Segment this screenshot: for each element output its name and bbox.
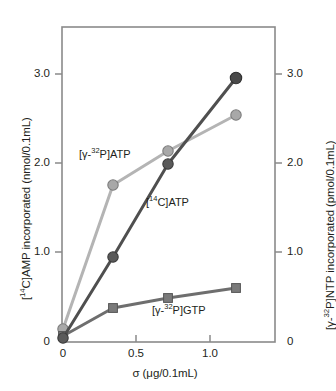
datapoint-gamma-atp-3 [231, 110, 241, 120]
series-annotation-gamma-gtp-post: P]GTP [173, 304, 206, 316]
series-annotation-gamma-gtp-pre: [γ- [152, 304, 164, 316]
datapoint-c14-atp-2 [163, 159, 173, 169]
series-annotation-gamma-32p-atp: [γ-32P]ATP [79, 146, 131, 160]
y-axis-right-ticks [275, 74, 282, 252]
datapoint-gamma-gtp-3 [232, 284, 241, 293]
y-axis-left-title-superscript: 14 [18, 288, 27, 297]
y-axis-left-title-pre: [ [20, 297, 32, 300]
datapoint-gamma-atp-1 [108, 180, 118, 190]
y-axis-right-title-pre: [γ- [324, 318, 336, 330]
y-axis-right-ticklabel-1: 1.0 [287, 245, 303, 257]
series-annotation-gamma-atp-superscript: 32 [91, 146, 99, 155]
y-axis-left-ticklabel-1: 1.0 [20, 245, 50, 257]
x-axis-ticklabel-1p0: 1.0 [198, 347, 222, 359]
datapoint-gamma-gtp-1 [109, 304, 118, 313]
series-annotation-14c-atp: [14C]ATP [146, 194, 189, 208]
x-axis-ticklabel-0p5: 0.5 [124, 347, 148, 359]
series-annotation-gamma-gtp-superscript: 32 [164, 302, 172, 311]
series-annotation-gamma-32p-gtp: [γ-32P]GTP [152, 302, 206, 316]
series-annotation-gamma-atp-pre: [γ- [79, 148, 91, 160]
y-axis-left-ticklabel-0: 0 [20, 335, 50, 347]
series-gamma-32p-gtp [59, 284, 241, 341]
y-axis-right-ticklabel-2: 2.0 [287, 156, 303, 168]
y-axis-left-ticklabel-2: 2.0 [20, 156, 50, 168]
y-axis-right-title-post: P]NTP incorporated (pmol/0.1mL) [324, 140, 336, 309]
x-axis-title: σ (μg/0.1mL) [0, 367, 330, 379]
series-annotation-gamma-atp-post: P]ATP [100, 148, 131, 160]
y-axis-right-ticklabel-3: 3.0 [287, 67, 303, 79]
x-axis-ticklabel-0: 0 [55, 347, 71, 359]
datapoint-gamma-atp-2 [163, 146, 173, 156]
y-axis-left-ticklabel-3: 3.0 [20, 67, 50, 79]
y-axis-left-ticks [55, 74, 62, 252]
series-annotation-c14-atp-post: C]ATP [157, 196, 189, 208]
y-axis-right-ticklabel-0: 0 [287, 335, 293, 347]
y-axis-right-title: [γ-32P]NTP incorporated (pmol/0.1mL) [322, 140, 336, 330]
datapoint-c14-atp-1 [108, 252, 118, 262]
y-axis-left-title-post: C]AMP incorporated (nmol/0.1mL) [20, 117, 32, 288]
datapoint-c14-atp-0 [58, 333, 68, 343]
datapoint-c14-atp-3 [230, 72, 241, 83]
y-axis-right-title-superscript: 32 [322, 309, 331, 318]
y-axis-left-title: [14C]AMP incorporated (nmol/0.1mL) [18, 117, 32, 300]
x-axis-ticks [136, 335, 210, 342]
series-line-c14-atp [63, 78, 236, 338]
